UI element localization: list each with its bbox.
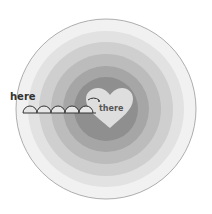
label-here: here [10,91,36,102]
target-diagram: here there [0,0,212,214]
arrow-tip-icon [98,100,100,102]
label-there: there [99,104,124,113]
